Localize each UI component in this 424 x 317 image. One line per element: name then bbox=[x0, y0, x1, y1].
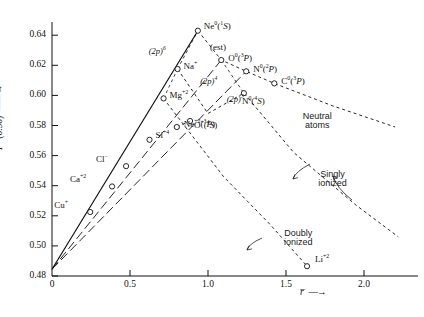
figure-root: P* (0.30) ——→ r̅ —→ 0.480.500.520.540.56… bbox=[0, 0, 424, 317]
x-tick-label: 1.5 bbox=[271, 280, 301, 290]
config-label-0: (2p)6 bbox=[149, 47, 166, 56]
point-label-mg-4: Mg+2 bbox=[170, 91, 189, 100]
config-label-2: (2p)3 bbox=[227, 95, 244, 104]
x-tick-label: 0.5 bbox=[115, 280, 145, 290]
point-label-na-5: Na+ bbox=[184, 62, 198, 71]
series-rising-dashed-singly bbox=[52, 60, 221, 269]
data-point-li-13[interactable] bbox=[304, 264, 309, 269]
y-tick-label: 0.64 bbox=[12, 30, 46, 40]
annotation-line-2: ionized bbox=[284, 238, 313, 247]
y-tick-label: 0.62 bbox=[12, 60, 46, 70]
data-point-n-10[interactable] bbox=[244, 69, 249, 74]
point-label-ne-6: Ne0(1S) bbox=[204, 22, 231, 31]
annotation-leader-1 bbox=[293, 164, 310, 179]
series-singly-ionized-curve bbox=[178, 69, 399, 237]
data-point-ca-1[interactable] bbox=[109, 184, 114, 189]
x-tick-label: 2.0 bbox=[349, 280, 379, 290]
data-point-mg-4[interactable] bbox=[161, 96, 166, 101]
y-tick-label: 0.60 bbox=[12, 90, 46, 100]
config-label-1: (2p)4 bbox=[200, 77, 217, 86]
point-label-cl-2: Cl− bbox=[96, 155, 108, 164]
data-point-c-12[interactable] bbox=[272, 81, 277, 86]
annotation-line-2: atoms bbox=[303, 121, 332, 130]
curve-annotation-0: Neutralatoms bbox=[303, 112, 332, 130]
point-label-si-3: Si+4 bbox=[156, 131, 170, 140]
x-tick-label: 0 bbox=[37, 280, 67, 290]
y-tick-label: 0.52 bbox=[12, 211, 46, 221]
point-label-c-12: C0(3P) bbox=[281, 77, 304, 86]
x-tick-label: 1.0 bbox=[193, 280, 223, 290]
curve-annotation-1: Singlyionized bbox=[318, 170, 347, 188]
curve-annotation-2: Doublyionized bbox=[284, 229, 313, 247]
series-rising-dashed-doubly bbox=[52, 71, 246, 269]
annotation-line-2: ionized bbox=[318, 179, 347, 188]
data-point-cl-2[interactable] bbox=[124, 164, 129, 169]
y-tick-label: 0.54 bbox=[12, 181, 46, 191]
y-tick-label: 0.56 bbox=[12, 151, 46, 161]
point-label-o-9: O+(4S) bbox=[194, 121, 217, 130]
point-label-li-13: Li+2 bbox=[315, 255, 329, 264]
data-point-si-3[interactable] bbox=[147, 137, 152, 142]
x-axis-label: r̅ —→ bbox=[300, 288, 325, 298]
point-label-n-10: N0(2P) bbox=[253, 65, 277, 74]
data-point-na-5[interactable] bbox=[175, 66, 180, 71]
data-point-o-8[interactable] bbox=[219, 57, 224, 62]
point-label-n-11: N0(4S) bbox=[242, 97, 265, 106]
annotation-leader-2 bbox=[247, 238, 262, 250]
data-point-ne-7[interactable] bbox=[174, 124, 179, 129]
data-point-cu-0[interactable] bbox=[88, 209, 93, 214]
point-label-o-8: O0(3P) bbox=[228, 54, 252, 63]
y-axis-label: P* (0.30) ——→ bbox=[0, 50, 4, 150]
y-tick-label: 0.58 bbox=[12, 121, 46, 131]
point-label-cu-0: Cu+ bbox=[54, 201, 68, 210]
data-point-ne-6[interactable] bbox=[195, 28, 200, 33]
estimate-note: (est) bbox=[210, 43, 226, 52]
y-tick-label: 0.50 bbox=[12, 241, 46, 251]
point-label-ca-1: Ca+2 bbox=[70, 175, 86, 184]
